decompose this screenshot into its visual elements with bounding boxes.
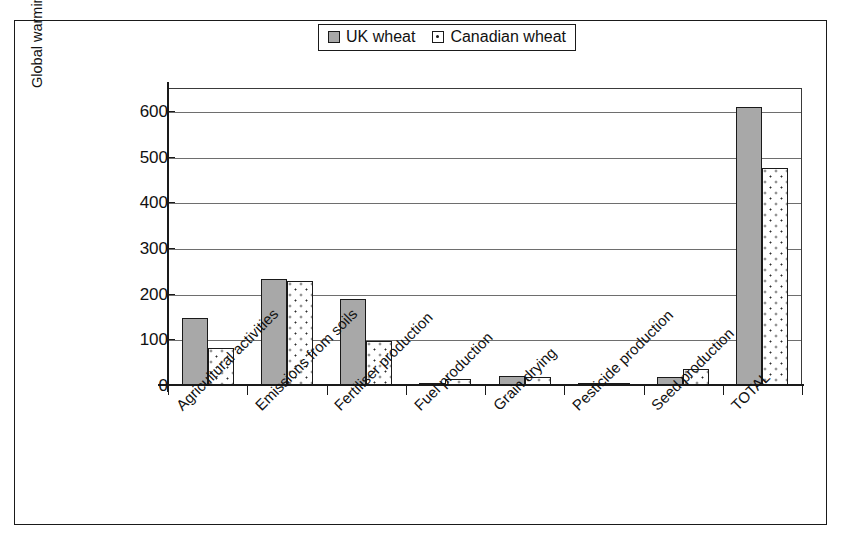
x-tick-mark [564,386,565,395]
bar-group [564,88,643,385]
bar-group [485,88,564,385]
y-tick-label-400: 400 [122,194,168,211]
bar-group [168,88,247,385]
bar-uk[interactable] [182,318,208,385]
bar-canadian[interactable] [287,281,313,385]
bar-canadian[interactable] [525,377,551,385]
legend-entry-uk-wheat: UK wheat [328,29,415,45]
x-tick-mark [802,386,803,395]
y-tick-label-0: 0 [122,377,168,394]
legend-swatch-canadian-icon [432,31,444,43]
bar-group [327,88,406,385]
x-tick-mark [168,386,169,395]
legend-entry-canadian-wheat: Canadian wheat [432,29,566,45]
y-axis-ticks: 0100200300400500600 [110,0,168,558]
bar-group [723,88,802,385]
y-tick-label-100: 100 [122,331,168,348]
x-tick-mark [644,386,645,395]
bar-canadian[interactable] [683,369,709,385]
y-tick-label-600: 600 [122,102,168,119]
bar-group [247,88,326,385]
y-tick-label-300: 300 [122,239,168,256]
bar-uk[interactable] [499,376,525,385]
legend-label-canadian-wheat: Canadian wheat [450,29,566,45]
bar-uk[interactable] [419,383,445,385]
bar-canadian[interactable] [445,379,471,385]
bar-uk[interactable] [261,279,287,385]
bars-layer [168,88,802,385]
chart-legend: UK wheat Canadian wheat [318,24,576,51]
legend-swatch-uk-icon [328,31,340,43]
y-tick-label-200: 200 [122,285,168,302]
bar-group [406,88,485,385]
x-tick-mark [723,386,724,395]
bar-uk[interactable] [340,299,366,385]
x-tick-mark [485,386,486,395]
bar-canadian[interactable] [366,341,392,385]
x-tick-mark [247,386,248,395]
bar-uk[interactable] [657,377,683,385]
bar-canadian[interactable] [604,383,630,385]
legend-label-uk-wheat: UK wheat [346,29,415,45]
x-tick-mark [327,386,328,395]
bar-uk[interactable] [736,107,762,385]
x-tick-mark [406,386,407,395]
bar-group [644,88,723,385]
y-tick-label-500: 500 [122,148,168,165]
y-axis-title: Global warming potential (kg CO2 eq./ton… [24,0,50,88]
bar-uk[interactable] [578,383,604,385]
bar-canadian[interactable] [762,168,788,385]
x-axis-ticks [168,386,802,396]
bar-canadian[interactable] [208,348,234,385]
